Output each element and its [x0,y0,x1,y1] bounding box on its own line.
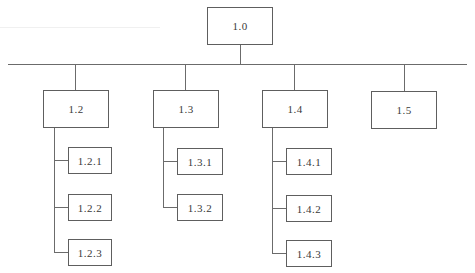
branch-1-3-1 [163,161,177,162]
node-label: 1.0 [232,20,247,32]
node-1-3-1: 1.3.1 [177,148,223,175]
node-label: 1.3.2 [188,202,213,214]
connector-1-2 [75,64,76,90]
node-1-3: 1.3 [153,90,219,128]
branch-1-2-1 [54,160,68,161]
branch-1-4-3 [272,253,286,254]
node-1-5: 1.5 [371,91,437,129]
level1-bus-line [8,64,467,65]
node-1-4: 1.4 [262,90,328,128]
branch-1-2-2 [54,207,68,208]
node-1-2-1: 1.2.1 [68,147,112,174]
node-label: 1.3 [178,103,193,115]
branch-1-2-3 [54,252,68,253]
node-label: 1.3.1 [188,156,213,168]
node-1-0: 1.0 [207,7,273,45]
node-label: 1.4.2 [297,203,322,215]
connector-1-4 [294,64,295,90]
node-label: 1.2.3 [78,247,103,259]
node-1-4-1: 1.4.1 [286,148,332,175]
branch-1-4-2 [272,208,286,209]
root-connector [240,45,241,65]
node-1-4-2: 1.4.2 [286,195,332,222]
stem-1-3 [163,128,164,208]
connector-1-5 [404,64,405,91]
faint-artifact-line [0,27,160,28]
branch-1-4-1 [272,161,286,162]
node-1-2-3: 1.2.3 [68,239,112,266]
branch-1-3-2 [163,207,177,208]
node-1-3-2: 1.3.2 [177,194,223,221]
node-label: 1.2.1 [78,155,103,167]
node-1-4-3: 1.4.3 [286,240,332,267]
stem-1-4 [272,128,273,254]
node-label: 1.4.1 [297,156,322,168]
node-label: 1.4.3 [297,248,322,260]
node-1-2: 1.2 [43,90,109,128]
node-label: 1.2 [68,103,83,115]
node-label: 1.5 [396,104,411,116]
node-1-2-2: 1.2.2 [68,194,112,221]
stem-1-2 [54,128,55,253]
connector-1-3 [185,64,186,90]
node-label: 1.4 [287,103,302,115]
node-label: 1.2.2 [78,202,103,214]
